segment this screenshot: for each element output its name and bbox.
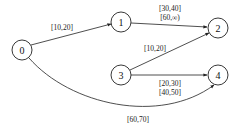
edge-label: [10,20] [51,23,73,32]
edge-label: [30,40] [159,4,181,13]
edge-1-2: [30,40] [60,∞) [131,4,207,27]
edge-0-1: [10,20] [31,23,111,45]
node-label: 3 [119,70,124,81]
node-label: 2 [216,23,221,34]
node-3: 3 [111,65,131,85]
edge-label: [40,50] [159,88,181,97]
edge-label: [60,∞) [160,13,180,22]
node-label: 0 [20,45,25,56]
edge-label: [60,70] [127,115,149,124]
node-1: 1 [111,12,131,32]
edge-3-2: [10,20] [130,33,209,70]
edge-label: [10,20] [144,44,166,53]
edge-label: [20,30] [159,79,181,88]
node-label: 4 [216,70,221,81]
node-label: 1 [119,17,124,28]
node-0: 0 [12,40,32,60]
node-4: 4 [208,65,228,85]
edge-3-4: [20,30] [40,50] [131,75,207,97]
node-2: 2 [208,18,228,38]
graph-canvas: [10,20] [30,40] [60,∞) [10,20] [20,30] [… [0,0,242,131]
